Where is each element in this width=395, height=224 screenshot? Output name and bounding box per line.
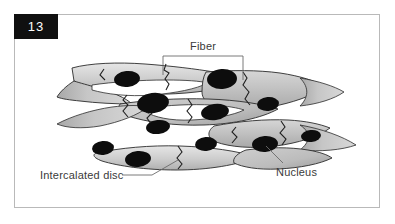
label-intercalated-disc: Intercalated disc (40, 169, 124, 181)
fiber-bottom-strand (94, 146, 256, 170)
figure-number-text: 13 (28, 19, 44, 34)
muscle-fiber-group (57, 56, 356, 175)
label-fiber: Fiber (190, 40, 216, 52)
fiber-right-tail (300, 78, 344, 106)
label-nucleus: Nucleus (276, 166, 317, 178)
cardiac-muscle-illustration (0, 0, 395, 224)
figure-container: 13 Fiber Intercalated disc Nucleus (0, 0, 395, 224)
figure-number-badge: 13 (14, 14, 58, 39)
